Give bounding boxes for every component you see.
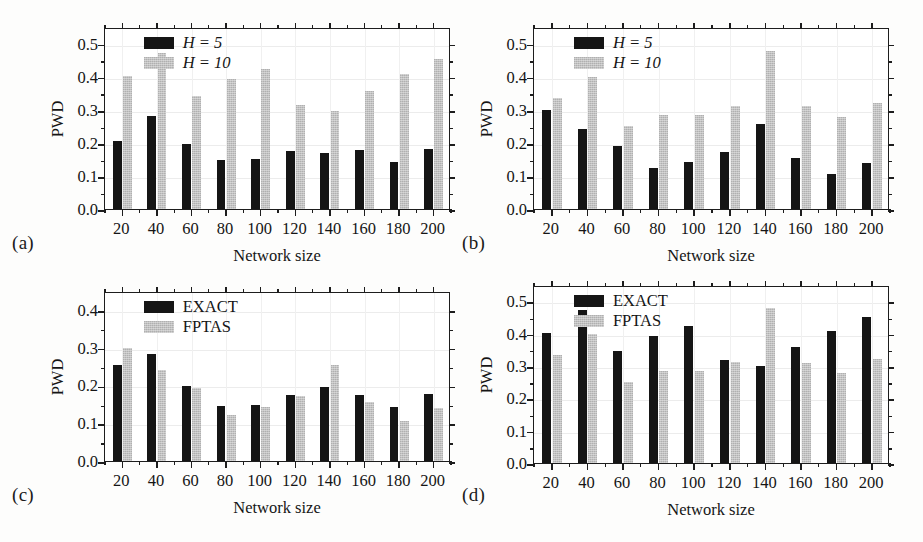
ytick-minor-right (888, 94, 892, 95)
xtick-minor-top (139, 289, 140, 293)
xtick-label: 100 (681, 473, 706, 493)
legend-swatch-approx (574, 315, 604, 327)
bar-d-s1-200 (873, 359, 882, 463)
xtick-major (260, 209, 262, 216)
xtick-minor-top (347, 289, 348, 293)
xtick-major-top (433, 287, 435, 293)
xtick-major-top (329, 23, 331, 29)
xtick-major (765, 209, 767, 216)
ytick-minor (530, 194, 534, 195)
xtick-major-top (551, 23, 553, 29)
ytick-minor-right (888, 448, 892, 449)
xtick-label: 80 (217, 471, 234, 491)
ytick-major-right (449, 144, 455, 146)
xtick-major (836, 463, 838, 470)
ytick-label: 0.4 (58, 301, 98, 321)
bar-b-s0-40 (578, 129, 587, 209)
ytick-major (527, 45, 534, 47)
xtick-major-top (587, 23, 589, 29)
xtick-minor-top (174, 289, 175, 293)
xtick-label: 60 (182, 219, 199, 239)
bar-a-s1-180 (400, 74, 409, 209)
bar-b-s0-80 (649, 168, 658, 209)
bar-a-s0-60 (182, 144, 191, 209)
bar-c-s0-80 (217, 406, 226, 461)
xtick-minor-top (174, 25, 175, 29)
xtick-major-top (329, 287, 331, 293)
ytick-label: 0.5 (487, 292, 527, 312)
ytick-minor (101, 406, 105, 407)
ytick-major (527, 78, 534, 80)
ytick-major (527, 367, 534, 369)
ytick-major-right (888, 78, 894, 80)
ytick-minor (101, 161, 105, 162)
ytick-label: 0.0 (487, 454, 527, 474)
ytick-minor-right (888, 383, 892, 384)
bar-c-s0-60 (182, 386, 191, 461)
xtick-minor (747, 463, 748, 467)
bar-d-s1-80 (659, 371, 668, 463)
ytick-minor (101, 94, 105, 95)
bar-b-s0-200 (862, 163, 871, 209)
xtick-minor (569, 463, 570, 467)
bar-b-s1-200 (873, 103, 882, 209)
bar-a-s0-160 (355, 150, 364, 209)
xtick-major (587, 209, 589, 216)
ytick-major-right (449, 111, 455, 113)
bar-b-s0-20 (542, 110, 551, 209)
bar-d-s0-120 (720, 360, 729, 463)
bar-a-s1-120 (296, 105, 305, 209)
xtick-label: 140 (752, 473, 777, 493)
xtick-major-top (765, 281, 767, 287)
xtick-minor (450, 209, 451, 213)
xtick-label: 20 (543, 219, 560, 239)
xtick-minor (783, 209, 784, 213)
bar-d-s0-140 (756, 366, 765, 463)
xtick-minor-top (605, 25, 606, 29)
xtick-major-top (260, 287, 262, 293)
legend-1: H = 5H = 10 (144, 34, 231, 74)
xtick-minor-top (569, 283, 570, 287)
xtick-minor-top (347, 25, 348, 29)
xtick-minor (208, 461, 209, 465)
bar-b-s1-60 (624, 126, 633, 209)
xtick-major-top (156, 23, 158, 29)
xtick-minor (416, 461, 417, 465)
xtick-major-top (836, 23, 838, 29)
xtick-minor (347, 209, 348, 213)
bar-a-s0-180 (390, 162, 399, 209)
xtick-label: 120 (716, 473, 741, 493)
xtick-major (398, 209, 400, 216)
ytick-major-right (888, 111, 894, 113)
xtick-minor (347, 461, 348, 465)
xtick-minor-top (416, 25, 417, 29)
xtick-major-top (225, 287, 227, 293)
xtick-major (191, 209, 193, 216)
ytick-major (527, 111, 534, 113)
bar-d-s0-60 (613, 351, 622, 463)
xtick-minor (818, 463, 819, 467)
xtick-minor (174, 461, 175, 465)
xtick-minor (139, 461, 140, 465)
ytick-minor (101, 443, 105, 444)
ytick-label: 0.0 (58, 200, 98, 220)
bar-d-s0-40 (578, 310, 587, 463)
xtick-minor (711, 463, 712, 467)
bar-c-s0-120 (286, 395, 295, 461)
ytick-major (98, 144, 105, 146)
ytick-minor-right (888, 61, 892, 62)
xtick-major-top (295, 287, 297, 293)
xtick-minor-top (208, 289, 209, 293)
xtick-major-top (191, 287, 193, 293)
ytick-major-right (449, 424, 455, 426)
ytick-major-right (449, 78, 455, 80)
legend-4: EXACTFPTAS (574, 292, 668, 332)
ytick-minor-right (449, 406, 453, 407)
xtick-label: 60 (614, 219, 631, 239)
xtick-major-top (122, 287, 124, 293)
bar-a-s1-20 (123, 76, 132, 209)
ytick-label: 0.1 (58, 167, 98, 187)
xtick-major-top (551, 281, 553, 287)
ytick-major (527, 302, 534, 304)
xtick-major-top (658, 281, 660, 287)
